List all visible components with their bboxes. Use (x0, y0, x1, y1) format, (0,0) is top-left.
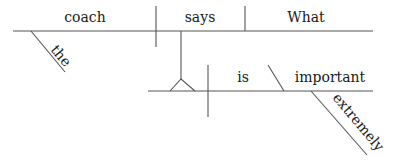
word-what: What (287, 9, 325, 25)
predicate-adjective-divider (268, 65, 284, 91)
word-says: says (185, 9, 216, 25)
word-the: the (48, 42, 75, 70)
word-is: is (237, 69, 249, 85)
clause-pedestal (170, 79, 195, 91)
sentence-diagram: coach says What the is important extreme… (0, 0, 394, 165)
word-coach: coach (64, 9, 105, 25)
word-important: important (295, 69, 366, 85)
